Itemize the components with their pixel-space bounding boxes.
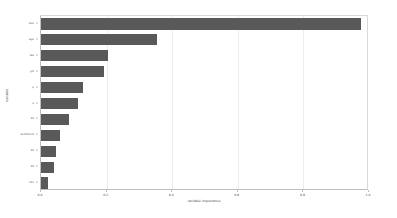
y-tick-mark: [36, 102, 38, 103]
y-tick-mark: [36, 150, 38, 151]
y-tick-label: d2: [31, 149, 34, 152]
x-tick-mark: [171, 190, 172, 192]
y-tick-label: d3: [31, 165, 34, 168]
bar: [41, 50, 108, 61]
bar-row: [41, 177, 369, 188]
bar: [41, 177, 48, 188]
x-tick-label: 0.2: [103, 194, 108, 197]
y-tick-mark: [36, 70, 38, 71]
x-axis-title: variable importance: [40, 200, 368, 203]
bar: [41, 146, 56, 157]
bar: [41, 98, 78, 109]
x-tick-label: 0.0: [38, 194, 43, 197]
bar: [41, 66, 104, 77]
y-tick-label: age: [29, 38, 34, 41]
y-tick-mark: [36, 134, 38, 135]
bar-row: [41, 18, 369, 29]
bar-row: [41, 50, 369, 61]
plot-panel: [40, 15, 368, 190]
y-tick-label: n1n: [29, 181, 34, 184]
y-tick-mark: [36, 86, 38, 87]
bar-row: [41, 162, 369, 173]
y-tick-label: tax: [30, 53, 34, 56]
x-tick-mark: [40, 190, 41, 192]
y-tick-mark: [36, 118, 38, 119]
x-tick-mark: [106, 190, 107, 192]
x-tick-label: 0.6: [234, 194, 239, 197]
y-axis-tick-labels: sizeagetaxyrspqd1sentimentd2d3n1n: [0, 15, 38, 190]
bar-row: [41, 146, 369, 157]
bar-row: [41, 98, 369, 109]
bar: [41, 162, 54, 173]
y-tick-label: size: [29, 22, 34, 25]
y-tick-mark: [36, 22, 38, 23]
bar-row: [41, 82, 369, 93]
bar: [41, 114, 69, 125]
x-tick-mark: [368, 190, 369, 192]
y-tick-label: sentiment: [20, 133, 34, 136]
bar-row: [41, 130, 369, 141]
x-tick-mark: [302, 190, 303, 192]
y-tick-mark: [36, 182, 38, 183]
x-tick-label: 1.0: [366, 194, 371, 197]
y-tick-mark: [36, 54, 38, 55]
bar-row: [41, 66, 369, 77]
bar: [41, 18, 361, 29]
y-axis-title: variable: [6, 89, 9, 102]
bar-row: [41, 34, 369, 45]
y-tick-label: q: [32, 101, 34, 104]
y-tick-label: d1: [31, 117, 34, 120]
y-tick-mark: [36, 166, 38, 167]
x-tick-mark: [237, 190, 238, 192]
x-tick-label: 0.4: [169, 194, 174, 197]
y-tick-mark: [36, 38, 38, 39]
bar: [41, 34, 157, 45]
bar-series: [41, 16, 367, 189]
bar: [41, 82, 83, 93]
bar-row: [41, 114, 369, 125]
y-tick-label: p: [32, 85, 34, 88]
bar: [41, 130, 60, 141]
y-tick-label: yrs: [30, 69, 34, 72]
x-tick-label: 0.8: [300, 194, 305, 197]
bar-chart-figure: sizeagetaxyrspqd1sentimentd2d3n1n 0.00.2…: [0, 0, 397, 218]
